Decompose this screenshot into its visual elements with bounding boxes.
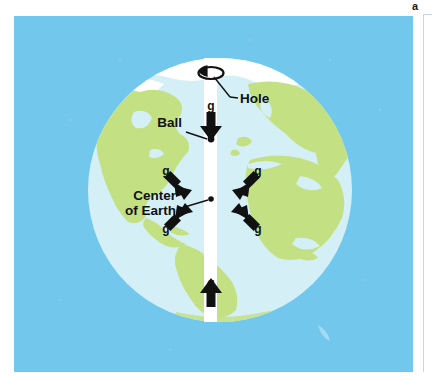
arrow-shaft-bottom: [207, 291, 216, 307]
figure-panel-a: a: [0, 0, 432, 379]
label-g-bottom: g: [207, 276, 214, 290]
label-g-upper-left: g: [162, 164, 169, 178]
label-ball: Ball: [157, 115, 182, 130]
label-g-top: g: [207, 99, 214, 113]
center-of-earth-marker: [208, 196, 214, 202]
label-hole: Hole: [240, 91, 270, 106]
arrow-shaft-top: [207, 112, 216, 128]
label-center-of-earth-line2: of Earth: [125, 203, 176, 218]
leader-line-hole-tail: [230, 97, 238, 98]
label-g-upper-right: g: [254, 164, 261, 178]
ball-marker: [208, 136, 215, 143]
right-rule-divider: [423, 14, 424, 372]
label-center-of-earth-line1: Center: [133, 188, 177, 203]
earth-gravity-illustration: Hole Ball Center of Earth g g g g g g: [0, 0, 432, 379]
label-g-lower-left: g: [162, 222, 169, 236]
label-g-lower-right: g: [254, 222, 261, 236]
top-rule-divider: [423, 14, 432, 15]
panel-label: a: [412, 0, 418, 12]
